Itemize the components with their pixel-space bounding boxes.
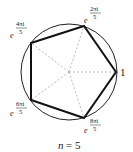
svg-text:5: 5 (93, 125, 96, 132)
svg-text:e: e (84, 16, 88, 25)
svg-text:n: n (58, 139, 64, 151)
svg-text:2πi: 2πi (90, 5, 99, 12)
svg-text:5: 5 (93, 13, 96, 20)
svg-text:e: e (84, 126, 88, 135)
vertex-label-4pi: e 4πi 5 (10, 20, 27, 40)
vertex-label-8pi: e 8πi 5 (84, 117, 101, 135)
svg-text:e: e (10, 109, 14, 118)
svg-text:5: 5 (19, 108, 22, 115)
vertex-label-2pi: e 2πi 5 (84, 5, 101, 25)
svg-text:8πi: 8πi (90, 117, 99, 124)
vertex-label-6pi: e 6πi 5 (10, 100, 27, 118)
roots-of-unity-diagram: 1 e 2πi 5 e 4πi 5 e 6πi 5 e 8πi 5 n = 5 (0, 0, 133, 152)
svg-text:= 5: = 5 (66, 139, 81, 151)
vertex-label-1: 1 (120, 66, 126, 78)
svg-text:6πi: 6πi (16, 100, 25, 107)
svg-text:5: 5 (19, 28, 22, 35)
caption: n = 5 (58, 139, 81, 151)
svg-text:e: e (10, 31, 14, 40)
svg-text:4πi: 4πi (16, 20, 25, 27)
